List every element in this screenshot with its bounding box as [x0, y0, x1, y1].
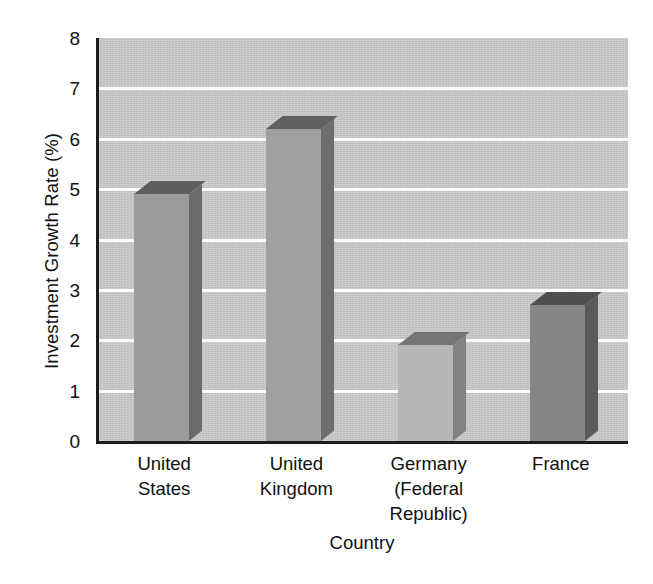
bar	[530, 305, 585, 441]
bar-side-face	[321, 119, 334, 441]
x-axis-tick-label: Germany (Federal Republic)	[390, 451, 468, 526]
bar	[398, 345, 453, 441]
x-axis-tick-labels: United StatesUnited KingdomGermany (Fede…	[96, 447, 628, 537]
gridline	[99, 87, 628, 90]
bar-front-face	[530, 305, 585, 441]
plot-area	[96, 38, 628, 441]
x-axis-tick-label: United States	[137, 451, 190, 501]
x-axis-tick-label: France	[532, 451, 590, 476]
bar-side-face	[189, 184, 202, 441]
y-axis-tick-label: 7	[0, 79, 80, 98]
y-axis-tick-label: 1	[0, 381, 80, 400]
bar-front-face	[398, 345, 453, 441]
x-axis-line	[96, 441, 628, 444]
y-axis-tick-label: 3	[0, 280, 80, 299]
y-axis-tick-label: 6	[0, 129, 80, 148]
y-axis-tick-label: 5	[0, 180, 80, 199]
bar-front-face	[134, 194, 189, 441]
y-axis-tick-labels: 012345678	[0, 38, 88, 441]
bar	[266, 129, 321, 441]
bar-side-face	[453, 335, 466, 441]
y-axis-tick-label: 0	[0, 432, 80, 451]
bar	[134, 194, 189, 441]
y-axis-tick-label: 8	[0, 29, 80, 48]
x-axis-tick-label: United Kingdom	[260, 451, 333, 501]
x-axis-title: Country	[96, 532, 628, 554]
bar-front-face	[266, 129, 321, 441]
gridline	[99, 138, 628, 141]
y-axis-tick-label: 2	[0, 331, 80, 350]
y-axis-tick-label: 4	[0, 230, 80, 249]
bar-side-face	[585, 295, 598, 441]
bar-chart: Investment Growth Rate (%) 012345678 Uni…	[0, 0, 653, 584]
